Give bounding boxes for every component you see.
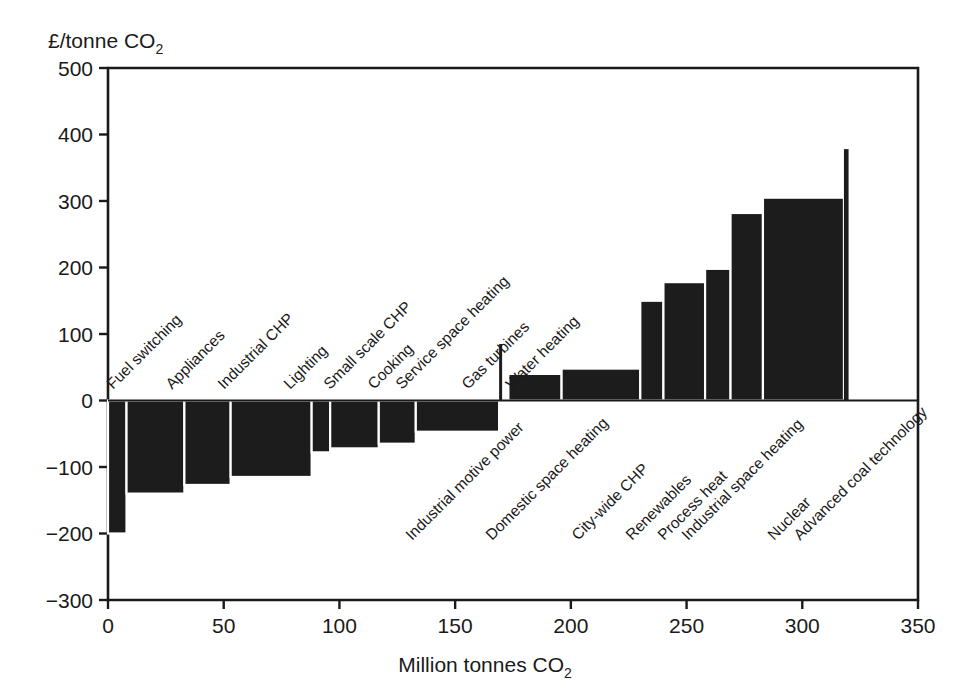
y-tick-label: −100 xyxy=(46,456,93,479)
category-label: Advanced coal technology xyxy=(790,403,930,543)
bar-rect xyxy=(184,401,230,485)
x-tick-label: 350 xyxy=(900,614,935,637)
bar-industrial-space-heating xyxy=(731,213,763,401)
bar-rect xyxy=(379,401,416,444)
y-tick-label: 300 xyxy=(58,190,93,213)
bar-advanced-coal-technology xyxy=(844,149,849,400)
x-tick-label: 50 xyxy=(212,614,235,637)
y-axis-ticks: −300−200−1000100200300400500 xyxy=(46,57,108,612)
bar-city-wide-chp xyxy=(640,301,663,401)
bar-renewables xyxy=(663,282,705,400)
bar-rect xyxy=(562,369,641,401)
bar-rect xyxy=(844,149,849,400)
x-tick-label: 150 xyxy=(438,614,473,637)
y-tick-label: −200 xyxy=(46,522,93,545)
y-tick-label: 0 xyxy=(81,389,93,412)
bar-industrial-chp xyxy=(184,401,230,485)
bar-appliances xyxy=(127,401,185,494)
bar-cooking xyxy=(330,401,379,449)
bar-domestic-space-heating xyxy=(562,369,641,401)
bar-rect xyxy=(731,213,763,401)
y-tick-label: 100 xyxy=(58,323,93,346)
bar-rect xyxy=(330,401,379,449)
bar-rect xyxy=(705,269,730,401)
y-axis-title: £/tonne CO2 xyxy=(48,29,163,57)
bar-small-scale-chp xyxy=(312,401,331,453)
x-tick-label: 100 xyxy=(322,614,357,637)
y-tick-label: 400 xyxy=(58,123,93,146)
x-axis-title: Million tonnes CO2 xyxy=(398,653,572,681)
category-label: Service space heating xyxy=(392,272,512,392)
x-axis-ticks: 050100150200250300350 xyxy=(102,600,935,637)
y-tick-label: 500 xyxy=(58,57,93,80)
bar-nuclear xyxy=(763,198,844,401)
bar-rect xyxy=(663,282,705,400)
bar-lighting xyxy=(231,401,312,477)
y-tick-label: −300 xyxy=(46,589,93,612)
x-tick-label: 250 xyxy=(669,614,704,637)
category-label: Lighting xyxy=(280,342,330,392)
bar-rect xyxy=(640,301,663,401)
bar-rect xyxy=(416,401,499,432)
bar-gas-turbines xyxy=(416,401,499,432)
bar-rect xyxy=(127,401,185,494)
bar-rect xyxy=(763,198,844,401)
category-labels-above: Fuel switchingAppliancesIndustrial CHPLi… xyxy=(103,272,582,392)
bar-rect xyxy=(312,401,331,453)
x-tick-label: 0 xyxy=(102,614,114,637)
mac-curve-chart: £/tonne CO2 −300−200−1000100200300400500… xyxy=(0,0,970,696)
x-tick-label: 200 xyxy=(553,614,588,637)
bar-rect xyxy=(231,401,312,477)
bar-rect xyxy=(108,401,127,534)
bar-fuel-switching xyxy=(108,401,127,534)
bar-process-heat xyxy=(705,269,730,401)
chart-figure: £/tonne CO2 −300−200−1000100200300400500… xyxy=(0,0,970,696)
x-tick-label: 300 xyxy=(785,614,820,637)
bar-service-space-heating xyxy=(379,401,416,444)
y-tick-label: 200 xyxy=(58,256,93,279)
